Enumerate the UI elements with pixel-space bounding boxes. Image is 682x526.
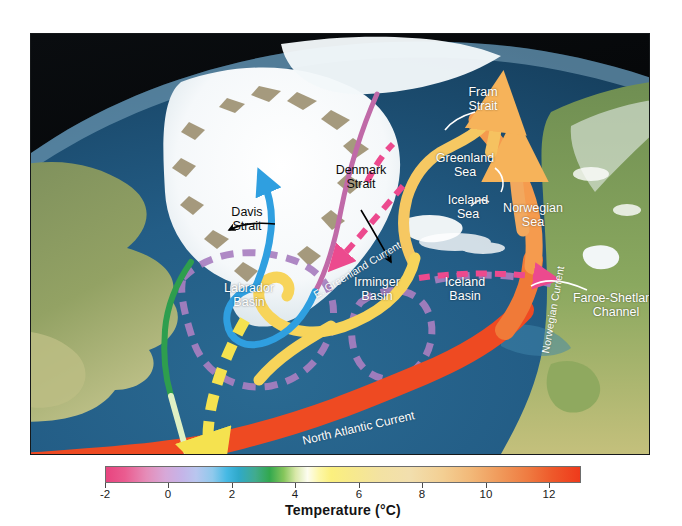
colorbar-tick-label: 0	[148, 488, 188, 500]
colorbar-gradient	[105, 466, 581, 483]
colorbar-title: Temperature (°C)	[105, 502, 581, 518]
colorbar-tick-label: 8	[402, 488, 442, 500]
map-panel: Fram Strait Greenland Sea Denmark Strait…	[30, 33, 650, 455]
colorbar-tick-label: -2	[85, 488, 125, 500]
colorbar-tick-label: 12	[529, 488, 569, 500]
colorbar-tick-label: 2	[212, 488, 252, 500]
colorbar: -2 0 2 4 6 8 10 12 Temperature (°C)	[105, 466, 581, 522]
norwegian-current-north-branch-arrow	[515, 154, 523, 230]
figure-root: Fram Strait Greenland Sea Denmark Strait…	[0, 0, 682, 526]
colorbar-tick-label: 6	[339, 488, 379, 500]
fram-strait-arrow	[491, 106, 499, 152]
colorbar-tick-label: 10	[466, 488, 506, 500]
map-canvas	[31, 34, 650, 455]
colorbar-tick-label: 4	[275, 488, 315, 500]
